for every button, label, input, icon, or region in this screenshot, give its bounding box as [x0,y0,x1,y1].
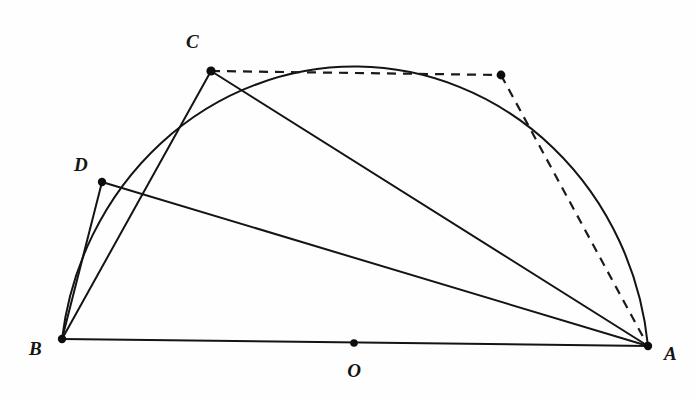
geometry-figure: ABCDO [0,0,698,398]
segment-EA-dashed [501,75,648,346]
vertex-dot-d [98,178,106,186]
vertex-dot-unlabeled-e [497,71,506,80]
vertex-label-b: B [28,338,42,359]
arc-layer [62,67,648,346]
segment-DA [102,182,648,346]
segment-CA [211,71,648,346]
geometry-canvas: ABCDO [0,0,698,398]
vertex-label-a: A [663,343,677,364]
vertex-dot-o [350,339,358,347]
segment-BC [62,71,211,339]
segment-BD [62,182,102,339]
vertex-dot-c [206,66,215,75]
vertex-label-d: D [73,154,88,175]
vertex-label-c: C [186,31,199,52]
vertex-dot-b [58,335,66,343]
segment-CE-dashed [211,71,501,75]
vertex-dot-layer [58,66,652,350]
semicircle-arc-BA [62,67,648,346]
segment-layer [62,71,648,346]
vertex-dot-a [644,342,652,350]
vertex-label-layer: ABCDO [28,31,677,381]
vertex-label-o: O [347,360,361,381]
